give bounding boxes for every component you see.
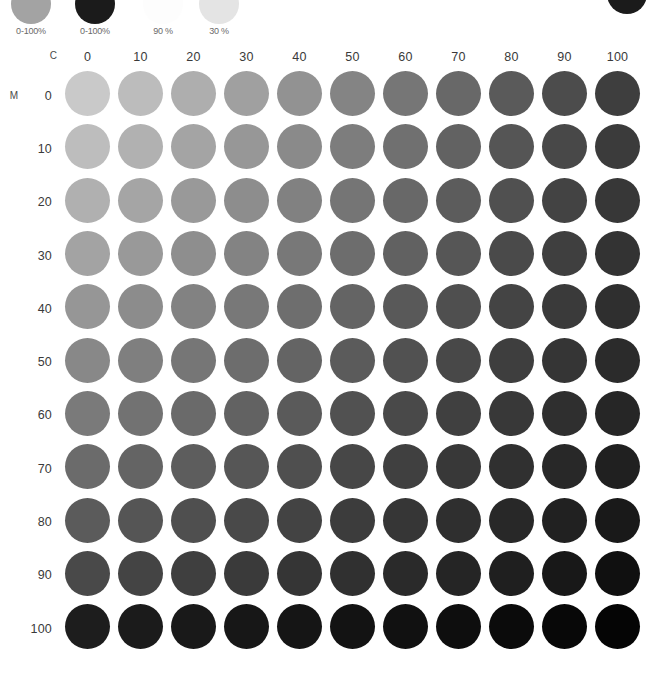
column-header-10: 10: [114, 42, 167, 69]
tone-dot: [171, 338, 216, 383]
tone-dot: [542, 284, 587, 329]
tone-dot: [330, 498, 375, 543]
y-axis-caption-spacer: [0, 389, 22, 442]
y-axis-caption-spacer: [0, 176, 22, 229]
tone-cell: [114, 122, 167, 175]
tone-dot: [595, 551, 640, 596]
tone-dot: [65, 604, 110, 649]
row-header-60: 60: [22, 389, 61, 442]
row-header-50: 50: [22, 335, 61, 388]
tone-dot: [330, 604, 375, 649]
tone-cell: [114, 389, 167, 442]
tone-cell: [591, 122, 644, 175]
tone-dot: [224, 498, 269, 543]
tone-cell: [61, 602, 114, 655]
tone-grid-row: 40: [0, 282, 644, 335]
tone-grid-row: 90: [0, 549, 644, 602]
column-header-80: 80: [485, 42, 538, 69]
y-axis-caption-spacer: [0, 335, 22, 388]
tone-dot: [330, 444, 375, 489]
tone-cell: [273, 495, 326, 548]
tone-dot: [542, 604, 587, 649]
tone-dot: [277, 71, 322, 116]
tone-dot: [542, 498, 587, 543]
tone-dot: [65, 444, 110, 489]
tone-dot: [118, 284, 163, 329]
reference-swatch: 30 %: [196, 0, 242, 36]
tone-cell: [485, 335, 538, 388]
tone-dot: [489, 604, 534, 649]
tone-dot: [330, 551, 375, 596]
y-axis-caption-spacer: [0, 442, 22, 495]
tone-cell: [538, 602, 591, 655]
tone-cell: [167, 69, 220, 122]
tone-grid-row: 10: [0, 122, 644, 175]
reference-swatch: 0-100%: [72, 0, 118, 36]
tone-cell: [220, 69, 273, 122]
swatch-dot: [11, 0, 51, 24]
tone-cell: [114, 549, 167, 602]
tone-cell: [485, 549, 538, 602]
tone-cell: [220, 602, 273, 655]
reference-swatch: 90 %: [140, 0, 186, 36]
tone-dot: [542, 71, 587, 116]
tone-dot: [330, 231, 375, 276]
tone-dot: [65, 551, 110, 596]
tone-cell: [379, 602, 432, 655]
tone-cell: [538, 442, 591, 495]
tone-dot: [595, 444, 640, 489]
tone-dot: [330, 178, 375, 223]
tone-dot: [542, 391, 587, 436]
tone-cell: [326, 69, 379, 122]
tone-dot: [383, 71, 428, 116]
tone-cell: [538, 282, 591, 335]
tone-cell: [591, 69, 644, 122]
column-header-60: 60: [379, 42, 432, 69]
y-axis-caption-spacer: [0, 229, 22, 282]
tone-cell: [61, 335, 114, 388]
tone-cell: [432, 282, 485, 335]
tone-dot: [542, 231, 587, 276]
tone-cell: [167, 442, 220, 495]
tone-cell: [379, 69, 432, 122]
tone-dot: [65, 498, 110, 543]
tone-cell: [114, 69, 167, 122]
tone-dot: [118, 604, 163, 649]
tone-cell: [485, 69, 538, 122]
column-header-20: 20: [167, 42, 220, 69]
tone-cell: [538, 69, 591, 122]
tone-cell: [379, 176, 432, 229]
tone-cell: [220, 549, 273, 602]
tone-cell: [326, 335, 379, 388]
tone-dot: [277, 284, 322, 329]
tone-cell: [485, 176, 538, 229]
tone-cell: [220, 176, 273, 229]
tone-cell: [167, 389, 220, 442]
tone-dot: [595, 284, 640, 329]
row-header-30: 30: [22, 229, 61, 282]
tone-cell: [326, 176, 379, 229]
tone-dot: [65, 284, 110, 329]
tone-dot: [542, 444, 587, 489]
tone-dot: [171, 498, 216, 543]
swatch-label: 30 %: [196, 26, 242, 36]
tone-dot: [224, 178, 269, 223]
tone-dot: [171, 124, 216, 169]
tone-cell: [379, 122, 432, 175]
tone-cell: [220, 122, 273, 175]
tone-cell: [591, 442, 644, 495]
swatch-label: 0-100%: [72, 26, 118, 36]
tone-cell: [538, 549, 591, 602]
tone-dot: [224, 444, 269, 489]
tone-cell: [61, 176, 114, 229]
tone-dot: [542, 551, 587, 596]
reference-swatch: 0-100%: [8, 0, 54, 36]
tone-cell: [432, 122, 485, 175]
tone-dot: [542, 178, 587, 223]
tone-cell: [485, 229, 538, 282]
tone-cell: [61, 442, 114, 495]
tone-cell: [273, 549, 326, 602]
tone-grid-row: 20: [0, 176, 644, 229]
swatch-dot: [75, 0, 115, 24]
tone-dot: [65, 338, 110, 383]
